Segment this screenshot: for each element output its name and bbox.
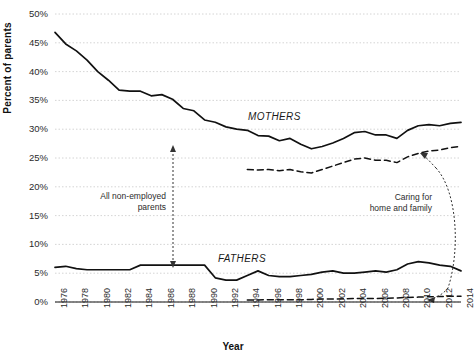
x-tick-label: 1990 bbox=[209, 288, 219, 308]
annotation-lines-group bbox=[170, 145, 455, 303]
x-tick-label: 1978 bbox=[80, 288, 90, 308]
x-tick-label: 2002 bbox=[337, 288, 347, 308]
x-tick-label: 2006 bbox=[380, 288, 390, 308]
mothers-series-label: MOTHERS bbox=[248, 111, 301, 122]
y-tick-label: 5% bbox=[6, 267, 48, 278]
y-tick-label: 15% bbox=[6, 210, 48, 221]
x-tick-label: 1976 bbox=[59, 288, 69, 308]
x-axis-title: Year bbox=[0, 341, 466, 352]
x-tick-label: 2000 bbox=[315, 288, 325, 308]
fathers-series-label: FATHERS bbox=[218, 253, 266, 264]
x-tick-label: 1982 bbox=[123, 288, 133, 308]
x-tick-label: 1996 bbox=[273, 288, 283, 308]
x-tick-label: 1992 bbox=[230, 288, 240, 308]
vertical-span-arrow-head-top bbox=[170, 145, 176, 152]
x-tick-label: 1980 bbox=[102, 288, 112, 308]
y-tick-label: 0% bbox=[6, 296, 48, 307]
x-tick-label: 2014 bbox=[465, 288, 475, 308]
x-tick-label: 1988 bbox=[187, 288, 197, 308]
x-tick-label: 1994 bbox=[251, 288, 261, 308]
x-tick-label: 2004 bbox=[358, 288, 368, 308]
y-tick-label: 20% bbox=[6, 181, 48, 192]
y-tick-label: 10% bbox=[6, 238, 48, 249]
y-tick-label: 25% bbox=[6, 152, 48, 163]
series-line-2 bbox=[55, 262, 461, 280]
caring-for-home-annotation: Caring for home and family bbox=[336, 192, 432, 213]
all-non-employed-annotation: All non-employed parents bbox=[68, 191, 166, 212]
series-line-1 bbox=[247, 146, 461, 173]
series-line-0 bbox=[55, 32, 461, 148]
x-tick-label: 1986 bbox=[166, 288, 176, 308]
x-tick-label: 2012 bbox=[444, 288, 454, 308]
curved-connector-line bbox=[436, 168, 455, 288]
y-axis-title: Percent of parents bbox=[2, 8, 13, 128]
x-tick-label: 2008 bbox=[401, 288, 411, 308]
x-tick-label: 1984 bbox=[144, 288, 154, 308]
x-tick-label: 1998 bbox=[294, 288, 304, 308]
x-tick-label: 2010 bbox=[422, 288, 432, 308]
